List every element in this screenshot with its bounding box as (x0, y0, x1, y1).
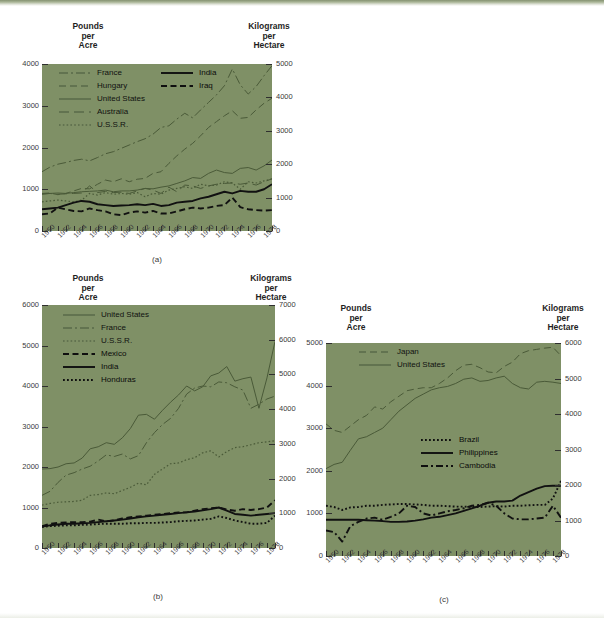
legend-item[interactable]: Mexico (62, 347, 149, 360)
legend-item[interactable]: France (58, 66, 145, 79)
legend-item[interactable]: United States (358, 358, 445, 371)
legend-item[interactable]: Brazil (420, 433, 498, 446)
y2-tickmark (266, 97, 272, 98)
legend-label: United States (97, 94, 145, 104)
chart-a-legend-col1: FranceHungaryUnited StatesAustraliaU.S.S… (58, 66, 145, 131)
y-tickmark (326, 513, 332, 514)
chart-c-left-axis-title: Pounds per Acre (328, 304, 384, 333)
legend-item[interactable]: United States (58, 92, 145, 105)
y2-axis-label: 2000 (565, 480, 582, 489)
legend-item[interactable]: France (62, 321, 149, 334)
series-philippines (326, 486, 561, 522)
y2-axis-label: 3000 (279, 439, 296, 448)
chart-a: Pounds per Acre Kilograms per Hectare (a… (0, 0, 302, 270)
legend-item[interactable]: U.S.S.R. (62, 334, 149, 347)
legend-key-dotted-dark-icon (420, 435, 454, 445)
y-tickmark (326, 428, 332, 429)
y2-axis-label: 6000 (565, 338, 582, 347)
y-tickmark (42, 64, 48, 65)
legend-key-dotted-dark-icon (62, 375, 96, 385)
y-axis-label: 4000 (10, 381, 39, 390)
y2-axis-label: 5000 (565, 374, 582, 383)
legend-key-dash-dot-dark-icon (420, 461, 454, 471)
legend-item[interactable]: India (62, 360, 149, 373)
y-tickmark (326, 386, 332, 387)
chart-b-legend: United StatesFranceU.S.S.R.MexicoIndiaHo… (62, 308, 149, 386)
y-tickmark (42, 346, 48, 347)
legend-key-solid-icon (58, 94, 92, 104)
y-axis-label: 3000 (10, 422, 39, 431)
axis-title-line: Acre (328, 323, 384, 333)
y2-tickmark (269, 409, 275, 410)
y-axis-label: 1000 (10, 503, 39, 512)
y-tickmark (42, 427, 48, 428)
legend-item[interactable]: Cambodia (420, 459, 498, 472)
legend-item[interactable]: Australia (58, 105, 145, 118)
chart-c-caption: (c) (424, 595, 464, 604)
chart-a-left-axis-title: Pounds per Acre (58, 22, 118, 51)
axis-title-line: Acre (58, 293, 118, 303)
legend-label: Iraq (199, 81, 213, 91)
y2-axis-label: 7000 (279, 300, 296, 309)
legend-key-dashed-dark-icon (160, 81, 194, 91)
series-france (42, 382, 275, 495)
series-iraq (42, 198, 272, 216)
legend-label: India (199, 68, 216, 78)
y2-axis-label: 5000 (276, 59, 293, 68)
y-axis-label: 2000 (294, 466, 323, 475)
legend-label: Honduras (101, 375, 136, 385)
y-axis-label: 5000 (10, 341, 39, 350)
y-tickmark (42, 189, 48, 190)
chart-b-caption: (b) (138, 592, 178, 601)
legend-label: France (97, 68, 122, 78)
legend-item[interactable]: United States (62, 308, 149, 321)
y2-axis-label: 3000 (276, 126, 293, 135)
axis-title-line: Hectare (238, 41, 300, 51)
legend-item[interactable]: Japan (358, 345, 445, 358)
legend-key-dotted-icon (62, 336, 96, 346)
y2-tickmark (269, 340, 275, 341)
y-axis-label: 6000 (10, 300, 39, 309)
legend-label: Philippines (459, 448, 498, 458)
series-honduras (42, 516, 275, 527)
y-tickmark (42, 386, 48, 387)
y2-tickmark (555, 521, 561, 522)
y-tickmark (42, 148, 48, 149)
legend-label: Mexico (101, 349, 126, 359)
legend-key-solid-dark-icon (62, 362, 96, 372)
y-axis-label: 0 (10, 543, 39, 552)
y2-tickmark (555, 450, 561, 451)
chart-a-caption: (a) (137, 255, 177, 264)
legend-label: Japan (397, 347, 419, 357)
y2-axis-label: 3000 (565, 445, 582, 454)
y2-tickmark (555, 485, 561, 486)
y-axis-label: 4000 (294, 381, 323, 390)
y2-tickmark (266, 64, 272, 65)
legend-item[interactable]: Hungary (58, 79, 145, 92)
legend-item[interactable]: Iraq (160, 79, 216, 92)
legend-key-dashed-icon (58, 81, 92, 91)
y2-axis-label: 4000 (565, 409, 582, 418)
y2-tickmark (555, 379, 561, 380)
y2-axis-label: 5000 (279, 369, 296, 378)
y2-axis-label: 4000 (279, 404, 296, 413)
y2-axis-label: 1000 (565, 516, 582, 525)
y2-tickmark (555, 343, 561, 344)
legend-item[interactable]: Philippines (420, 446, 498, 459)
legend-label: Hungary (97, 81, 127, 91)
legend-item[interactable]: U.S.S.R. (58, 118, 145, 131)
y-axis-label: 3000 (10, 101, 39, 110)
legend-key-dash-dot-icon (62, 323, 96, 333)
chart-b-left-axis-title: Pounds per Acre (58, 274, 118, 303)
legend-item[interactable]: India (160, 66, 216, 79)
y-axis-label: 0 (294, 551, 323, 560)
y2-axis-label: 2000 (276, 159, 293, 168)
legend-item[interactable]: Honduras (62, 373, 149, 386)
y-axis-label: 3000 (294, 423, 323, 432)
legend-key-solid-icon (358, 360, 392, 370)
y-tickmark (42, 106, 48, 107)
legend-label: Australia (97, 107, 128, 117)
chart-c-right-axis-title: Kilograms per Hectare (532, 304, 594, 333)
legend-label: Brazil (459, 435, 479, 445)
y2-axis-label: 1000 (276, 193, 293, 202)
